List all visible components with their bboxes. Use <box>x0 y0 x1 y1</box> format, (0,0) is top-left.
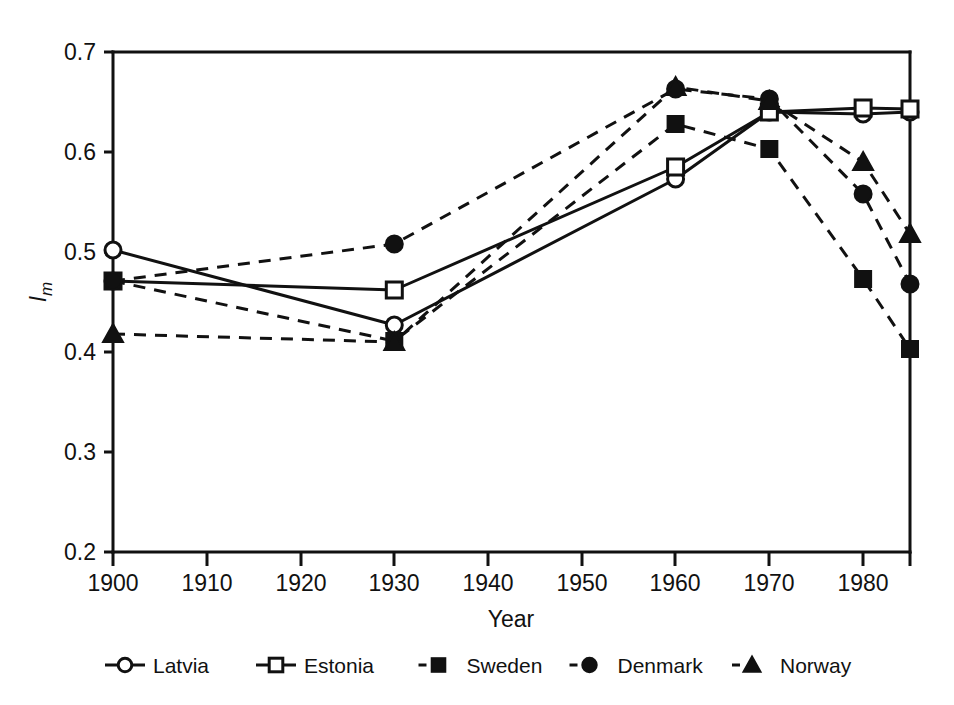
marker-open-square <box>855 100 871 116</box>
y-tick-label: 0.7 <box>64 39 96 65</box>
figure-background <box>0 0 954 705</box>
legend-label: Sweden <box>467 654 543 677</box>
marker-filled-square <box>902 341 918 357</box>
x-tick-labels: 1900 1910 1920 1930 1940 1950 1960 1970 … <box>87 570 888 596</box>
marker-filled-circle <box>105 273 122 290</box>
x-tick-label: 1900 <box>87 570 138 596</box>
marker-open-circle <box>105 242 121 258</box>
marker-open-square <box>269 658 283 672</box>
x-axis-title: Year <box>488 606 535 632</box>
x-tick-label: 1940 <box>462 570 513 596</box>
marker-open-square <box>386 282 402 298</box>
legend-label: Estonia <box>304 654 374 677</box>
legend-label: Latvia <box>153 654 209 677</box>
x-tick-label: 1980 <box>837 570 888 596</box>
y-tick-label: 0.4 <box>64 339 96 365</box>
x-tick-label: 1960 <box>649 570 700 596</box>
line-chart-figure: 0.7 0.6 0.5 0.4 0.3 0.2 Im 1900 1910 192… <box>0 0 954 705</box>
x-tick-label: 1930 <box>368 570 419 596</box>
marker-open-square <box>902 101 918 117</box>
marker-open-circle <box>118 658 132 672</box>
marker-filled-circle <box>855 186 872 203</box>
marker-filled-square <box>432 658 446 672</box>
y-tick-label: 0.6 <box>64 139 96 165</box>
x-tick-label: 1950 <box>556 570 607 596</box>
y-tick-label: 0.2 <box>64 539 96 565</box>
y-tick-label: 0.5 <box>64 239 96 265</box>
y-tick-label: 0.3 <box>64 439 96 465</box>
y-axis-title-sub: m <box>37 282 56 296</box>
marker-filled-circle <box>902 276 919 293</box>
marker-open-square <box>668 159 684 175</box>
marker-filled-square <box>855 271 871 287</box>
marker-filled-circle <box>386 236 403 253</box>
legend-label: Norway <box>780 654 852 677</box>
x-tick-label: 1910 <box>181 570 232 596</box>
x-tick-label: 1970 <box>743 570 794 596</box>
legend-label: Denmark <box>618 654 704 677</box>
marker-filled-square <box>668 116 684 132</box>
marker-filled-circle <box>582 658 596 672</box>
marker-filled-square <box>761 141 777 157</box>
x-tick-label: 1920 <box>275 570 326 596</box>
